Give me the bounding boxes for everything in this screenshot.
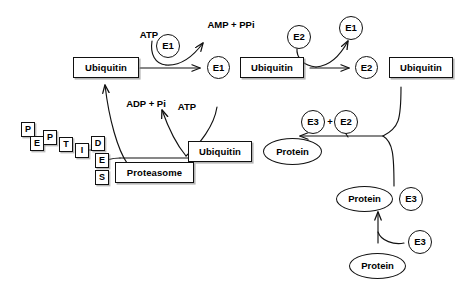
node-label: Protein <box>276 147 309 157</box>
node-label: E2 <box>361 63 373 73</box>
pathway-diagram: Ubiquitin ATP E1 AMP + PPi E1 Ubiquitin … <box>0 0 459 286</box>
curve-e3-in <box>378 232 404 244</box>
node-label: E1 <box>162 41 174 51</box>
peptide-letter-4: I <box>75 143 89 158</box>
line-junction-to-protein-e3 <box>383 136 394 186</box>
peptide-letter-7: S <box>95 170 109 185</box>
peptide-letter-6: E <box>95 153 109 168</box>
arrow-ubiquitin-recycled <box>105 85 127 163</box>
node-ubiquitin-free: Ubiquitin <box>73 57 139 78</box>
node-label: E3 <box>414 237 426 247</box>
peptide-letter-label: P <box>25 125 31 134</box>
node-label: ADP + Pi <box>126 99 166 109</box>
node-e3-free: E3 <box>408 230 432 254</box>
node-e1-released: E1 <box>339 16 363 40</box>
node-e2-bound: E2 <box>355 56 378 79</box>
node-proteasome: Proteasome <box>115 162 194 183</box>
node-label: Proteasome <box>127 168 182 178</box>
peptide-letter-label: P <box>47 133 53 142</box>
node-e3-released: E3 <box>301 110 325 134</box>
label-adp-pi: ADP + Pi <box>118 98 174 110</box>
node-label: ATP <box>178 102 196 112</box>
label-amp-ppi: AMP + PPi <box>200 19 262 31</box>
peptide-letter-5: D <box>91 136 105 151</box>
node-e3-bound: E3 <box>399 187 423 211</box>
peptide-letter-label: E <box>99 156 105 165</box>
node-ubiquitin-on-e2: Ubiquitin <box>389 57 453 78</box>
line-e2ub-down <box>383 87 401 136</box>
node-label: AMP + PPi <box>207 20 254 30</box>
node-label: + <box>327 117 333 127</box>
peptide-letter-label: D <box>95 139 102 148</box>
label-atp-2: ATP <box>172 101 202 113</box>
peptide-letter-1: E <box>30 136 44 151</box>
peptide-letter-label: S <box>99 173 105 182</box>
node-label: Protein <box>348 194 381 204</box>
node-e2-catalyst: E2 <box>287 25 311 49</box>
node-protein-tagged: Protein <box>263 138 322 165</box>
node-label: ATP <box>140 30 158 40</box>
peptide-letter-3: T <box>59 137 73 152</box>
node-protein-free: Protein <box>349 253 406 279</box>
node-e2-released: E2 <box>334 110 358 134</box>
node-label: E2 <box>340 117 352 127</box>
node-label: E3 <box>405 194 417 204</box>
peptide-letter-0: P <box>21 122 35 137</box>
node-label: Ubiquitin <box>400 63 442 73</box>
node-label: Ubiquitin <box>251 63 293 73</box>
node-ubiquitin-tagged: Ubiquitin <box>188 141 252 162</box>
node-e1-bound: E1 <box>207 56 230 79</box>
node-ubiquitin-on-e1: Ubiquitin <box>240 57 304 78</box>
node-label: Ubiquitin <box>199 147 241 157</box>
curve-e1-out <box>316 41 348 67</box>
curve-adp-pi-out <box>162 110 186 156</box>
node-label: E2 <box>293 32 305 42</box>
node-e1-catalyst: E1 <box>156 34 180 58</box>
peptide-letter-label: T <box>63 140 69 149</box>
node-label: E3 <box>307 117 319 127</box>
node-label: E1 <box>345 23 357 33</box>
node-label: E1 <box>213 63 225 73</box>
peptide-letter-2: P <box>43 130 57 145</box>
node-protein-e3-bound: Protein <box>336 186 393 212</box>
peptide-letter-label: E <box>34 139 40 148</box>
node-label: Protein <box>361 261 394 271</box>
node-label: Ubiquitin <box>85 63 127 73</box>
peptide-letter-label: I <box>81 146 84 155</box>
